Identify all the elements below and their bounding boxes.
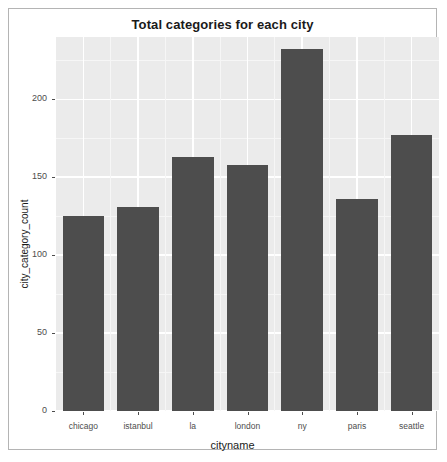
x-tick-label-seattle: seattle	[399, 421, 424, 431]
x-tick-label-london: london	[235, 421, 261, 431]
bar-seattle	[391, 135, 433, 411]
y-tick-mark	[52, 99, 55, 100]
x-axis-label: cityname	[9, 439, 447, 451]
bar-paris	[336, 199, 378, 411]
x-tick-mark	[357, 412, 358, 415]
gridline-vertical-minor	[165, 37, 166, 411]
x-tick-label-chicago: chicago	[69, 421, 98, 431]
bar-istanbul	[117, 207, 159, 411]
gridline-vertical-minor	[329, 37, 330, 411]
y-tick-label: 0	[7, 405, 47, 415]
gridline-vertical-minor	[274, 37, 275, 411]
x-tick-label-la: la	[189, 421, 196, 431]
x-tick-mark	[83, 412, 84, 415]
x-tick-label-paris: paris	[348, 421, 366, 431]
bar-london	[227, 165, 269, 411]
x-tick-label-ny: ny	[298, 421, 307, 431]
chart-frame: Total categories for each city city_cate…	[8, 8, 437, 450]
bar-chicago	[63, 216, 105, 411]
y-tick-mark	[52, 333, 55, 334]
y-axis-label: city_category_count	[19, 124, 35, 364]
y-tick-mark	[52, 255, 55, 256]
x-tick-mark	[248, 412, 249, 415]
bar-la	[172, 157, 214, 411]
gridline-vertical-minor	[384, 37, 385, 411]
chart-title: Total categories for each city	[9, 17, 436, 32]
x-tick-mark	[302, 412, 303, 415]
bar-ny	[281, 49, 323, 411]
x-tick-mark	[412, 412, 413, 415]
x-tick-mark	[193, 412, 194, 415]
y-tick-label: 200	[7, 93, 47, 103]
y-tick-mark	[52, 177, 55, 178]
gridline-vertical-minor	[110, 37, 111, 411]
x-tick-mark	[138, 412, 139, 415]
plot-panel	[56, 37, 439, 411]
y-tick-mark	[52, 411, 55, 412]
x-tick-label-istanbul: istanbul	[123, 421, 152, 431]
gridline-vertical-minor	[220, 37, 221, 411]
